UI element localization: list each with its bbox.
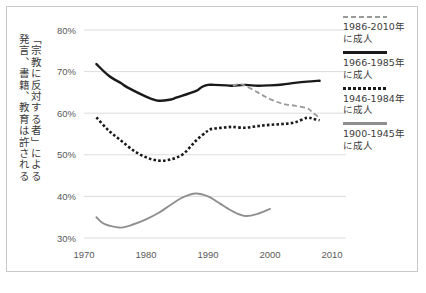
legend-item[interactable]: 1986-2010年 に成人 [343, 16, 419, 45]
legend-item-label: 1946-1984年 に成人 [343, 93, 419, 117]
legend-swatch-icon [343, 122, 387, 125]
legend-swatch-icon [343, 51, 387, 54]
legend-swatch-icon [343, 87, 387, 90]
y-axis-title: 「宗教に反対する者」による 発言、書籍、教育は許される [10, 34, 48, 256]
legend-item[interactable]: 1946-1984年 に成人 [343, 87, 419, 117]
y-axis-title-line1: 「宗教に反対する者」による [30, 34, 41, 182]
legend-item-label: 1966-1985年 に成人 [343, 57, 419, 81]
y-axis-title-line2: 発言、書籍、教育は許される [17, 34, 28, 182]
legend-swatch-icon [343, 16, 387, 18]
chart-legend: 1986-2010年 に成人1966-1985年 に成人1946-1984年 に… [343, 16, 419, 158]
legend-item[interactable]: 1900-1945年 に成人 [343, 122, 419, 151]
legend-item-label: 1900-1945年 に成人 [343, 128, 419, 152]
legend-item[interactable]: 1966-1985年 に成人 [343, 51, 419, 81]
legend-item-label: 1986-2010年 に成人 [343, 21, 419, 45]
